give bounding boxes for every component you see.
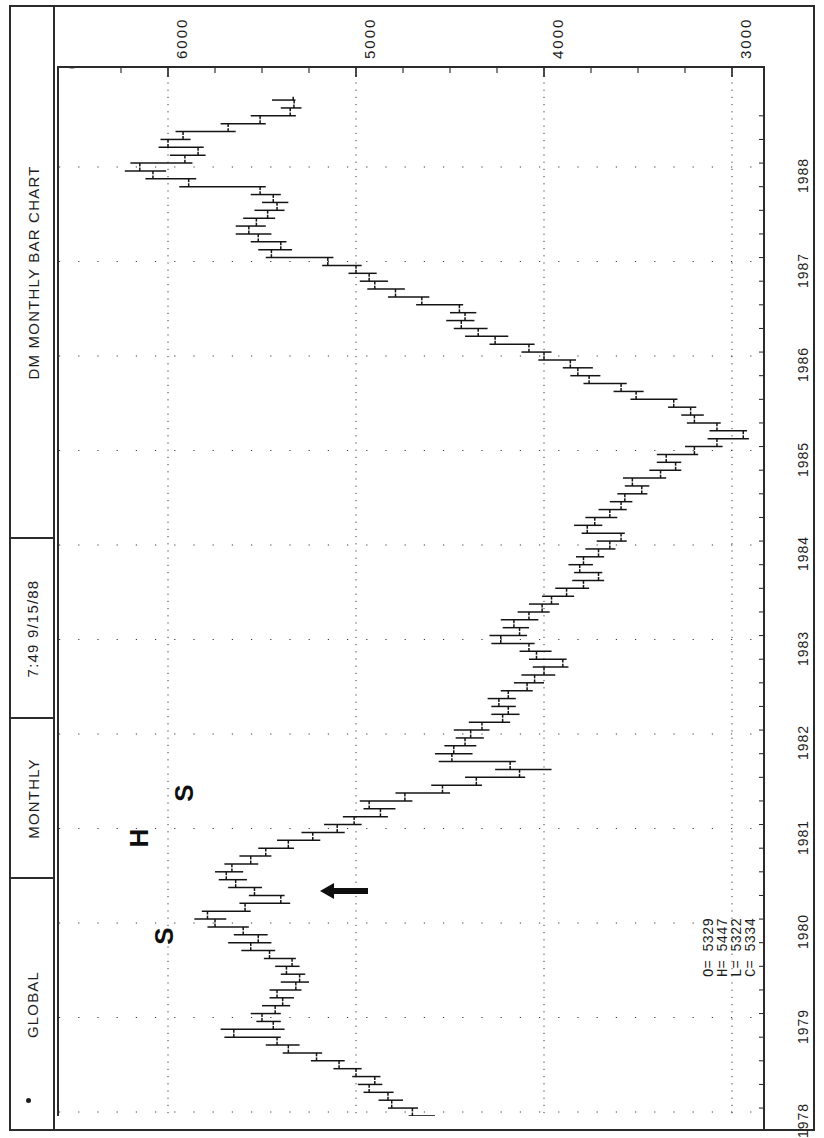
header-cell-timestamp: 7:49 9/15/88 [11,537,55,717]
price-tick-label: 5000 [361,18,378,59]
year-tick-label: 1983 [795,630,811,665]
year-tick-label: 1978 [795,1103,811,1138]
head-label: H [126,829,152,848]
period-label: MONTHLY [25,758,42,839]
neckline-arrow [318,880,370,906]
price-tick-label: 4000 [549,18,566,59]
plot-area: 0 SHS O= 5329 H= 5447 L= 5322 C= 5334 9/… [57,66,763,1116]
year-tick-label: 1981 [795,819,811,854]
price-axis: 6000500040003000 [57,7,813,65]
year-tick-label: 1984 [795,536,811,571]
year-tick-label: 1980 [795,914,811,949]
timestamp-label: 7:49 9/15/88 [25,579,42,677]
header-cell-datasource: GLOBAL [11,877,55,1129]
time-axis: 1978197919801981198219831984198519861987… [763,66,813,1129]
annotation-layer: SHS [59,68,763,1116]
price-tick-label: 3000 [737,18,754,59]
header-cell-period: MONTHLY [11,717,55,877]
shoulder-right-label: S [171,784,197,801]
header-cell-chart-title: DM MONTHLY BAR CHART [11,7,55,537]
year-tick-label: 1988 [795,158,811,193]
year-tick-label: 1982 [795,725,811,760]
year-tick-label: 1987 [795,252,811,287]
year-tick-label: 1979 [795,1008,811,1043]
year-tick-label: 1986 [795,347,811,382]
datasource-label: GLOBAL [25,970,42,1037]
price-tick-label: 6000 [173,18,190,59]
ohlc-readout: O= 5329 H= 5447 L= 5322 C= 5334 [702,918,758,977]
shoulder-left-label: S [151,927,177,944]
year-tick-label: 1985 [795,441,811,476]
chart-title-label: DM MONTHLY BAR CHART [25,165,42,379]
header-strip: DM MONTHLY BAR CHART 7:49 9/15/88 MONTHL… [11,7,55,1129]
corner-dot-marker [26,1098,31,1103]
